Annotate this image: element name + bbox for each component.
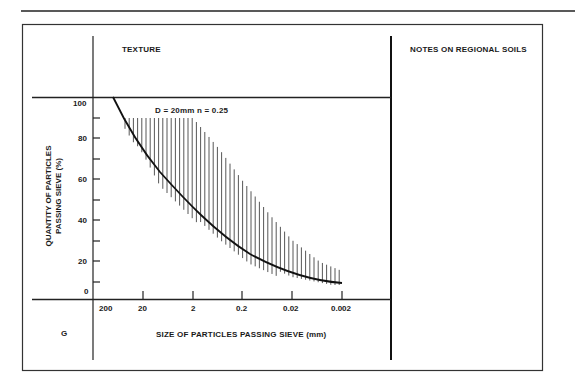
chart-frame bbox=[0, 0, 575, 387]
texture-label: TEXTURE bbox=[122, 45, 161, 54]
y-axis-title-line1: QUANTITY OF PARTICLES bbox=[44, 145, 53, 246]
x-tick-200: 200 bbox=[99, 304, 112, 313]
hatched-band bbox=[125, 118, 339, 285]
y-tick-20: 20 bbox=[78, 257, 87, 266]
y-axis-ticks bbox=[93, 118, 100, 282]
y-tick-80: 80 bbox=[78, 134, 87, 143]
curve-annotation: D = 20mm n = 0.25 bbox=[155, 106, 228, 115]
y-tick-0: 0 bbox=[84, 287, 88, 296]
x-tick-20: 20 bbox=[138, 304, 147, 313]
x-tick-0.002: 0.002 bbox=[331, 304, 351, 313]
x-tick-2: 2 bbox=[191, 304, 195, 313]
outer-border bbox=[23, 25, 543, 371]
x-tick-0.02: 0.02 bbox=[283, 304, 299, 313]
y-tick-60: 60 bbox=[78, 175, 87, 184]
grading-curve bbox=[113, 97, 342, 283]
x-tick-0.2: 0.2 bbox=[236, 304, 247, 313]
group-label: G bbox=[61, 329, 67, 338]
x-axis-ticks bbox=[143, 291, 342, 299]
y-axis-title-line2: PASSING SIEVE (%) bbox=[54, 158, 63, 234]
y-axis-title: QUANTITY OF PARTICLES PASSING SIEVE (%) bbox=[44, 136, 64, 256]
notes-label: NOTES ON REGIONAL SOILS bbox=[410, 45, 527, 54]
x-axis-title: SIZE OF PARTICLES PASSING SIEVE (mm) bbox=[156, 330, 326, 339]
y-tick-40: 40 bbox=[78, 216, 87, 225]
y-tick-100: 100 bbox=[73, 99, 86, 108]
